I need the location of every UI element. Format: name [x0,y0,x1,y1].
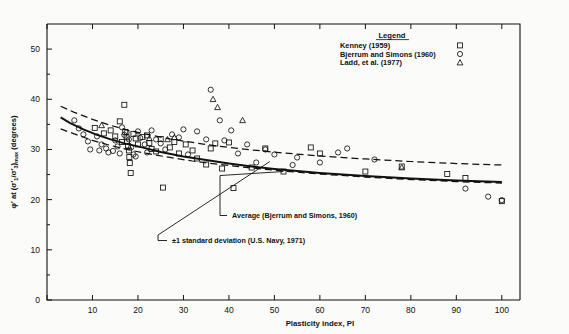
data-point-square [208,146,213,151]
data-point-circle [97,148,102,153]
data-point-square [317,151,322,156]
x-tick-label: 80 [406,305,416,315]
data-point-square [160,185,165,190]
data-point-circle [229,128,234,133]
data-point-square [117,119,122,124]
data-point-triangle [240,117,246,122]
data-point-square [92,125,97,130]
legend-marker-triangle [457,60,463,65]
data-point-circle [194,129,199,134]
data-point-circle [317,160,322,165]
data-point-circle [335,150,340,155]
data-point-circle [486,194,491,199]
data-point-circle [295,155,300,160]
annotation-average-label: Average (Bjerrum and Simons, 1960) [232,211,358,220]
y-axis-label: φ′ at (σ′1/σ′3)max (degrees) [9,115,19,208]
data-point-circle [99,142,104,147]
y-tick-label: 50 [31,44,41,54]
data-point-circle [254,160,259,165]
axis-left-bottom [47,24,520,300]
data-point-square [463,176,468,181]
x-tick-label: 20 [133,305,143,315]
data-point-circle [88,147,93,152]
data-point-circle [72,118,77,123]
y-axis: 01020304050 [31,44,52,305]
data-point-square [122,102,127,107]
data-point-square [220,166,225,171]
y-tick-label: 40 [31,94,41,104]
legend-title: Legend [378,31,405,40]
data-point-circle [245,142,250,147]
data-point-circle [463,186,468,191]
data-point-circle [85,139,90,144]
y-tick-label: 30 [31,144,41,154]
legend: LegendKenney (1959)Bjerrum and Simons (1… [340,31,463,67]
x-tick-label: 90 [452,305,462,315]
x-tick-label: 60 [315,305,325,315]
data-point-square [127,161,132,166]
data-point-circle [117,151,122,156]
data-point-square [308,145,313,150]
data-point-circle [208,87,213,92]
x-axis-label: Plasticity index, PI [286,319,354,328]
data-point-square [172,139,177,144]
data-point-square [128,171,133,176]
x-tick-label: 30 [179,305,189,315]
axis-top-right [47,24,520,300]
legend-label-2: Ladd, et al. (1977) [340,58,403,67]
x-tick-label: 40 [224,305,234,315]
y-tick-label: 20 [31,195,41,205]
data-point-circle [110,148,115,153]
data-point-square [183,142,188,147]
chart-figure: 10203040506070809010001020304050Plastici… [0,0,569,334]
x-tick-label: 100 [495,305,509,315]
data-point-circle [345,146,350,151]
data-point-circle [217,118,222,123]
x-tick-label: 10 [88,305,98,315]
data-point-circle [149,128,154,133]
x-tick-label: 70 [361,305,371,315]
data-point-circle [181,127,186,132]
data-point-square [108,128,113,133]
annotation-average-leader [220,172,284,216]
x-tick-label: 50 [270,305,280,315]
data-point-square [101,131,106,136]
plot-frame [47,24,520,300]
data-point-square [363,169,368,174]
data-point-circle [204,137,209,142]
data-point-triangle [210,96,216,101]
y-tick-label: 0 [35,295,40,305]
data-point-square [190,148,195,153]
data-point-triangle [215,104,221,109]
annotation-stddev-label: ±1 standard deviation (U.S. Navy, 1971) [172,236,306,245]
data-point-circle [290,162,295,167]
legend-marker-circle [457,51,462,56]
y-tick-label: 10 [31,245,41,255]
data-point-circle [235,151,240,156]
data-point-square [445,172,450,177]
legend-marker-square [458,43,463,48]
